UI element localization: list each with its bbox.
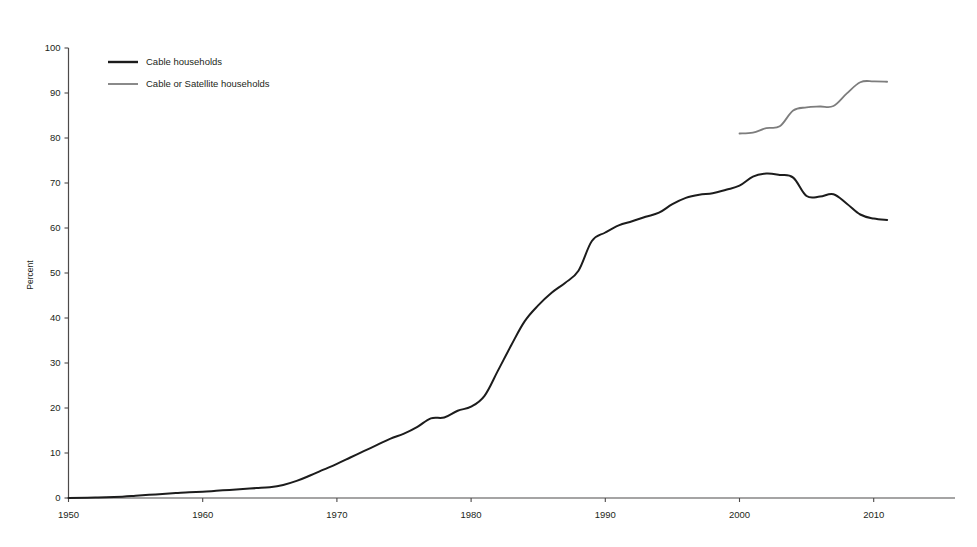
y-axis-title: Percent — [25, 260, 35, 290]
x-tick-label: 1970 — [326, 509, 347, 520]
x-tick-label: 2000 — [729, 509, 750, 520]
y-tick-label: 0 — [55, 492, 60, 503]
series-line-0 — [69, 173, 888, 498]
x-tick-label: 1990 — [595, 509, 616, 520]
y-tick-label: 40 — [50, 312, 61, 323]
x-tick-label: 1950 — [58, 509, 79, 520]
axes: 0102030405060708090100195019601970198019… — [25, 42, 955, 520]
y-tick-label: 10 — [50, 447, 61, 458]
chart-svg: 0102030405060708090100195019601970198019… — [0, 0, 977, 547]
x-tick-label: 2010 — [863, 509, 884, 520]
y-tick-label: 70 — [50, 177, 61, 188]
y-tick-label: 60 — [50, 222, 61, 233]
chart-page: 0102030405060708090100195019601970198019… — [0, 0, 977, 547]
series-line-1 — [740, 81, 888, 134]
legend-label-0: Cable households — [146, 56, 222, 67]
line-chart: 0102030405060708090100195019601970198019… — [0, 0, 977, 547]
x-tick-label: 1960 — [192, 509, 213, 520]
y-tick-label: 100 — [45, 42, 61, 53]
chart-legend: Cable householdsCable or Satellite house… — [108, 56, 270, 89]
y-tick-label: 20 — [50, 402, 61, 413]
x-tick-label: 1980 — [461, 509, 482, 520]
y-tick-label: 30 — [50, 357, 61, 368]
y-tick-label: 90 — [50, 87, 61, 98]
legend-label-1: Cable or Satellite households — [146, 78, 270, 89]
y-tick-label: 80 — [50, 132, 61, 143]
series-layer — [69, 81, 888, 498]
y-tick-label: 50 — [50, 267, 61, 278]
